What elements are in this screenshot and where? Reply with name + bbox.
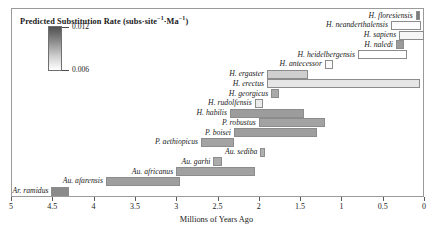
range-bar	[416, 11, 420, 20]
taxon-range-row: P. boisei	[0, 128, 433, 137]
taxon-range-row: Au. afarensis	[0, 177, 433, 186]
taxon-label: H. habilis	[27, 108, 227, 118]
range-bar	[325, 60, 333, 69]
taxon-range-row: Ar. ramidus	[0, 187, 433, 196]
taxon-range-row: Au. sediba	[0, 148, 433, 157]
taxon-label: Au. afarensis	[0, 176, 103, 186]
range-bar	[255, 99, 263, 108]
range-bar	[391, 21, 421, 30]
x-tick	[218, 197, 219, 201]
taxon-range-row: H. ergaster	[0, 70, 433, 79]
taxon-range-row: Au. africanus	[0, 167, 433, 176]
taxon-label: H. georgicus	[68, 89, 268, 99]
taxon-range-row: P. aethiopicus	[0, 138, 433, 147]
x-tick-label: 0	[409, 202, 433, 211]
taxon-range-row: Au. garhi	[0, 157, 433, 166]
x-tick	[52, 197, 53, 201]
x-tick-label: 5	[0, 202, 26, 211]
x-tick-label: 1	[326, 202, 356, 211]
taxon-label: P. aethiopicus	[0, 137, 198, 147]
x-tick-label: 2	[244, 202, 274, 211]
taxon-label: H. ergaster	[64, 69, 264, 79]
range-bar	[399, 31, 424, 40]
x-tick-label: 4.5	[37, 202, 67, 211]
x-tick	[300, 197, 301, 201]
range-bar	[271, 89, 279, 98]
range-bar	[106, 177, 180, 186]
taxon-range-row: H. antecessor	[0, 60, 433, 69]
range-bar	[260, 148, 264, 157]
x-tick-label: 4	[79, 202, 109, 211]
x-tick-label: 3	[161, 202, 191, 211]
taxon-label: H. floresiensis	[213, 11, 413, 21]
taxon-range-row: H. erectus	[0, 79, 433, 88]
x-tick	[135, 197, 136, 201]
taxon-range-row: P. robustus	[0, 118, 433, 127]
range-bar	[267, 79, 420, 88]
taxon-label: P. robustus	[56, 118, 256, 128]
range-bar	[230, 109, 304, 118]
x-tick	[94, 197, 95, 201]
taxon-range-row: H. habilis	[0, 109, 433, 118]
range-bar	[176, 167, 254, 176]
hominin-temporal-range-chart: Predicted Substitution Rate (subs·site−1…	[0, 0, 433, 237]
x-tick	[341, 197, 342, 201]
x-tick	[11, 197, 12, 201]
x-tick	[383, 197, 384, 201]
taxon-label: Au. sediba	[57, 147, 257, 157]
range-bar	[234, 128, 317, 137]
x-tick-label: 3.5	[120, 202, 150, 211]
x-tick	[424, 197, 425, 201]
taxon-range-row: H. floresiensis	[0, 11, 433, 20]
taxon-label: Au. africanus	[0, 167, 173, 177]
taxon-label: Au. garhi	[10, 157, 210, 167]
taxon-range-row: H. georgicus	[0, 89, 433, 98]
taxon-label: H. antecessor	[122, 59, 322, 69]
taxon-range-row: H. naledi	[0, 40, 433, 49]
taxon-label: H. neanderthalensis	[188, 20, 388, 30]
taxon-label: H. naledi	[193, 40, 393, 50]
taxon-range-row: H. sapiens	[0, 31, 433, 40]
x-tick-label: 0.5	[368, 202, 398, 211]
taxon-label: P. boisei	[31, 128, 231, 138]
taxon-range-row: H. rudolfensis	[0, 99, 433, 108]
taxon-label: Ar. ramidus	[0, 186, 48, 196]
taxon-label: H. heidelbergensis	[155, 50, 355, 60]
taxon-label: H. sapiens	[196, 30, 396, 40]
taxon-range-row: H. neanderthalensis	[0, 21, 433, 30]
range-bar	[51, 187, 68, 196]
x-tick-label: 1.5	[285, 202, 315, 211]
range-bar	[267, 70, 308, 79]
x-tick	[259, 197, 260, 201]
range-bar	[396, 40, 404, 49]
x-tick-label: 2.5	[203, 202, 233, 211]
range-bar	[259, 118, 325, 127]
range-bar	[213, 157, 221, 166]
x-tick	[176, 197, 177, 201]
x-axis-label: Millions of Years Ago	[0, 215, 433, 225]
range-bar	[201, 138, 234, 147]
taxon-range-row: H. heidelbergensis	[0, 50, 433, 59]
taxon-label: H. erectus	[64, 79, 264, 89]
range-bar	[358, 50, 408, 59]
taxon-label: H. rudolfensis	[52, 98, 252, 108]
